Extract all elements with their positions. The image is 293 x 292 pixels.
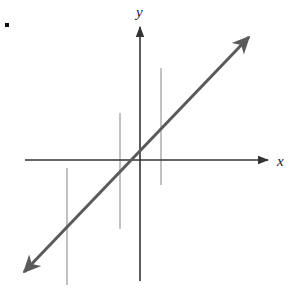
graphed-line: [24, 37, 249, 272]
bullet-marker: [5, 23, 9, 27]
axes-group: [25, 27, 268, 281]
coordinate-plane-svg: x y: [0, 0, 293, 292]
line-graph-figure: x y: [0, 0, 293, 292]
graphed-line-group: [24, 37, 249, 272]
x-axis-label: x: [276, 153, 284, 169]
y-axis-label: y: [134, 4, 143, 20]
